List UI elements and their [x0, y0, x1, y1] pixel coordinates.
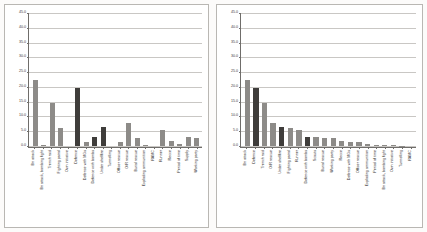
x-tick-mark — [111, 147, 112, 149]
bar — [339, 141, 344, 146]
x-label-slot: Runner — [158, 148, 167, 226]
bar-slot — [329, 13, 338, 146]
x-tick-mark — [376, 147, 377, 149]
x-label-slot: Period of time — [372, 148, 381, 226]
x-tick-mark — [197, 147, 198, 149]
x-tick-mark — [145, 147, 146, 149]
x-tick-mark — [77, 147, 78, 149]
y-tick-label: 45.0 — [19, 11, 26, 15]
x-label-slot: Exploding ammunition — [363, 148, 372, 226]
x-tick-label: Bn attack — [32, 150, 36, 165]
bar — [33, 80, 38, 146]
bar — [92, 137, 97, 146]
bar-slot — [57, 13, 66, 146]
bar-slot — [406, 13, 415, 146]
bar-slot — [295, 13, 304, 146]
x-tick-label: Defence — [75, 150, 79, 164]
x-label-slot: Officer rescue — [115, 148, 124, 226]
x-label-slot: Defence with MGs — [346, 148, 355, 226]
bar-slot — [108, 13, 117, 146]
bar — [75, 88, 80, 146]
x-tick-label: Defence with MGs — [348, 150, 352, 180]
bar-slot — [167, 13, 176, 146]
bar-slot — [372, 13, 381, 146]
x-tick-mark — [324, 147, 325, 149]
x-label-slot: Period of time — [175, 148, 184, 226]
bar — [50, 103, 55, 146]
x-tick-mark — [188, 147, 189, 149]
x-label-slot: Under shellfire — [277, 148, 286, 226]
x-label-slot: Working party — [192, 148, 201, 226]
x-tick-label: Own initiative — [392, 150, 396, 172]
bar-slot — [389, 13, 398, 146]
bar — [382, 145, 387, 146]
x-tick-label: Runner — [296, 150, 300, 162]
bar — [160, 130, 165, 146]
x-tick-mark — [272, 147, 273, 149]
bar — [348, 142, 353, 146]
bar-slot — [346, 13, 355, 146]
x-label-slot: Own initiative — [389, 148, 398, 226]
x-tick-label: Bn attack, bombing fight — [41, 150, 45, 190]
y-tick-label: 10.0 — [231, 115, 238, 119]
bar — [331, 138, 336, 146]
bar — [391, 145, 396, 146]
bar-slot — [312, 13, 321, 146]
plot-area-left: 45.040.035.030.025.020.015.010.05.00.0 — [28, 13, 202, 147]
x-label-slot: Scouts — [311, 148, 320, 226]
bar-slot — [65, 13, 74, 146]
x-label-slot: Trench raid — [47, 148, 56, 226]
bar-slot — [159, 13, 168, 146]
x-tick-mark — [94, 147, 95, 149]
x-tick-label: Scouts — [314, 150, 318, 161]
bar — [101, 127, 106, 146]
y-tick-label: 5.0 — [21, 129, 26, 133]
bar-slot — [252, 13, 261, 146]
x-tick-mark — [120, 147, 121, 149]
chart-panel-sorted: 45.040.035.030.025.020.015.010.05.00.0 B… — [216, 4, 423, 228]
x-label-slot: Exploding ammunition — [141, 148, 150, 226]
bar-series-left — [29, 13, 202, 146]
bar-slot — [99, 13, 108, 146]
x-tick-label: Bn attack, bombing fight — [383, 150, 387, 190]
y-tick-label: 20.0 — [231, 85, 238, 89]
y-tick-label: 30.0 — [19, 56, 26, 60]
x-tick-label: Exploding ammunition — [143, 150, 147, 186]
bar-slot — [277, 13, 286, 146]
sorted-bar-chart: 45.040.035.030.025.020.015.010.05.00.0 B… — [217, 5, 422, 227]
x-tick-mark — [51, 147, 52, 149]
x-tick-label: RAMC — [152, 150, 156, 161]
bar-slot — [260, 13, 269, 146]
bar — [194, 138, 199, 146]
y-tick-label: 35.0 — [231, 41, 238, 45]
bar-slot — [243, 13, 252, 146]
x-label-slot: Defence with bombs — [90, 148, 99, 226]
x-tick-mark — [281, 147, 282, 149]
x-tick-label: Period of time — [178, 150, 182, 173]
x-tick-mark — [255, 147, 256, 149]
x-tick-mark — [402, 147, 403, 149]
x-label-slot: Tunnelling — [398, 148, 407, 226]
x-label-slot: Bn attack, bombing fight — [381, 148, 390, 226]
bar-slot — [150, 13, 159, 146]
bar — [58, 128, 63, 146]
x-tick-mark — [342, 147, 343, 149]
y-tick-label: 10.0 — [19, 115, 26, 119]
x-tick-label: Period of time — [374, 150, 378, 173]
bar — [186, 137, 191, 146]
bar-slot — [142, 13, 151, 146]
x-label-slot: Defence with MGs — [81, 148, 90, 226]
y-tick-label: 25.0 — [19, 70, 26, 74]
bar-slot — [176, 13, 185, 146]
x-label-slot: Recce — [337, 148, 346, 226]
x-label-slot: Supply — [184, 148, 193, 226]
bar-slot — [398, 13, 407, 146]
bar-slot — [48, 13, 57, 146]
bar-slot — [363, 13, 372, 146]
bar-slot — [125, 13, 134, 146]
x-label-slot: Fighting patrol — [285, 148, 294, 226]
x-tick-mark — [307, 147, 308, 149]
y-tick-label: 0.0 — [233, 144, 238, 148]
screenshot-root: 45.040.035.030.025.020.015.010.05.00.0 B… — [0, 0, 427, 232]
x-tick-label: Supply — [186, 150, 190, 161]
